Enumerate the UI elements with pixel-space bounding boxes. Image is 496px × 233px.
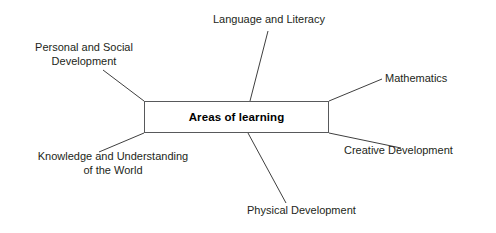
node-label-line: of the World — [18, 164, 208, 178]
connector-physical-development — [248, 133, 286, 203]
node-label-knowledge-and-understanding-of-the-world: Knowledge and Understanding of the World — [18, 150, 208, 177]
node-label-creative-development: Creative Development — [344, 144, 453, 158]
node-label-line: Personal and Social — [30, 41, 138, 55]
node-label-line: Knowledge and Understanding — [18, 150, 208, 164]
node-label-personal-and-social-development: Personal and Social Development — [30, 41, 138, 68]
node-label-line: Development — [30, 55, 138, 69]
center-node-areas-of-learning: Areas of learning — [144, 101, 329, 133]
node-label-mathematics: Mathematics — [385, 72, 447, 86]
node-label-line: Creative Development — [344, 144, 453, 158]
node-label-line: Physical Development — [247, 204, 356, 218]
node-label-physical-development: Physical Development — [247, 204, 356, 218]
node-label-language-and-literacy: Language and Literacy — [213, 13, 325, 27]
node-label-line: Language and Literacy — [213, 13, 325, 27]
connector-personal-and-social-development — [103, 70, 144, 101]
areas-of-learning-diagram: Areas of learning Language and Literacy … — [0, 0, 496, 233]
connector-language-and-literacy — [250, 31, 268, 101]
center-node-label: Areas of learning — [189, 111, 285, 123]
connector-mathematics — [329, 79, 382, 101]
node-label-line: Mathematics — [385, 72, 447, 86]
